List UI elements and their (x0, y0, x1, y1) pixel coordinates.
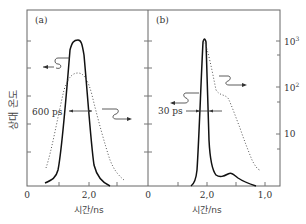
panel-b-xlabel: 시간/ns (192, 205, 222, 215)
panel-a-fwhm-label: 600 ps (32, 107, 63, 117)
panel-a-label: (a) (35, 15, 47, 25)
panel-b-xtick-0: 0 (145, 190, 151, 200)
panel-b-solid-curve (191, 39, 256, 186)
panel-a-wavy-arrow-left (55, 58, 70, 68)
panel-a-xtick-2: 2,0 (82, 190, 97, 200)
panel-a-dotted-curve (46, 73, 124, 180)
arrow-head-left-icon (43, 65, 48, 69)
arrow-head-right-icon (127, 117, 132, 121)
panel-a-xlabel: 시간/ns (74, 205, 104, 215)
right-tick-100: 102 (284, 81, 299, 93)
panel-b-dotted-curve (204, 40, 260, 170)
chart-canvas: (a) (b) 상대 온도 600 ps 30 ps 103 102 10 0 … (0, 0, 306, 224)
right-tick-10: 10 (284, 129, 296, 139)
panel-b-wavy-arrow-right (219, 76, 236, 85)
panel-a-wavy-arrow-right (102, 109, 122, 119)
panel-b-xtick-2: 2,0 (200, 190, 215, 200)
y-axis-label: 상대 온도 (8, 90, 19, 129)
panel-b-wavy-arrow-left (180, 93, 199, 103)
plot-frame (27, 10, 280, 186)
panel-b-xtick-1: 1,0 (258, 190, 273, 200)
arrow-head-left-icon (170, 101, 175, 105)
arrow-head-right-icon (242, 83, 247, 87)
panel-a-xtick-0: 0 (24, 190, 30, 200)
panel-b-label: (b) (156, 15, 169, 25)
panel-b-fwhm-label: 30 ps (158, 106, 183, 116)
right-tick-1000: 103 (284, 35, 299, 47)
